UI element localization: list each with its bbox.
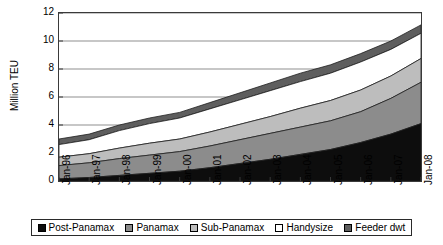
legend-label: Panamax bbox=[136, 223, 178, 233]
legend-item-handysize[interactable]: Handysize bbox=[275, 223, 333, 233]
x-tick-label: Jan-08 bbox=[424, 154, 434, 185]
legend-label: Post-Panamax bbox=[49, 223, 115, 233]
x-tick-label: Jan-99 bbox=[153, 154, 163, 185]
x-tick-label: Jan-97 bbox=[92, 154, 102, 185]
legend-swatch-icon bbox=[125, 224, 133, 232]
legend-label: Sub-Panamax bbox=[201, 223, 264, 233]
legend-item-feeder-dwt[interactable]: Feeder dwt bbox=[344, 223, 405, 233]
x-tick-label: Jan-98 bbox=[122, 154, 132, 185]
x-tick-label: Jan-01 bbox=[213, 154, 223, 185]
x-tick-label: Jan-05 bbox=[334, 154, 344, 185]
x-tick-label: Jan-06 bbox=[364, 154, 374, 185]
x-tick-label: Jan-96 bbox=[62, 154, 72, 185]
legend-swatch-icon bbox=[190, 224, 198, 232]
chart-legend: Post-PanamaxPanamaxSub-PanamaxHandysizeF… bbox=[31, 219, 412, 236]
x-tick-label: Jan-07 bbox=[394, 154, 404, 185]
x-tick-label: Jan-04 bbox=[303, 154, 313, 185]
legend-swatch-icon bbox=[38, 224, 46, 232]
legend-label: Feeder dwt bbox=[355, 223, 405, 233]
x-tick-label: Jan-02 bbox=[243, 154, 253, 185]
legend-item-sub-panamax[interactable]: Sub-Panamax bbox=[190, 223, 264, 233]
legend-swatch-icon bbox=[344, 224, 352, 232]
legend-swatch-icon bbox=[275, 224, 283, 232]
x-tick-label: Jan-03 bbox=[273, 154, 283, 185]
legend-item-post-panamax[interactable]: Post-Panamax bbox=[38, 223, 115, 233]
x-tick-label: Jan-00 bbox=[183, 154, 193, 185]
legend-label: Handysize bbox=[286, 223, 333, 233]
legend-item-panamax[interactable]: Panamax bbox=[125, 223, 178, 233]
stacked-area-chart: Million TEU 024681012 Jan-96Jan-97Jan-98… bbox=[0, 0, 443, 245]
x-axis-tick-labels: Jan-96Jan-97Jan-98Jan-99Jan-00Jan-01Jan-… bbox=[0, 0, 443, 245]
